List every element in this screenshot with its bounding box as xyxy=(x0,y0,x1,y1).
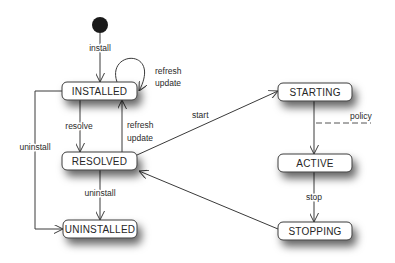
label-policy: policy xyxy=(350,111,372,121)
state-resolved: RESOLVED xyxy=(62,152,137,170)
label-self-update: update xyxy=(155,78,181,88)
state-starting: STARTING xyxy=(278,83,352,101)
label-resolve: resolve xyxy=(65,121,93,131)
initial-state-dot xyxy=(92,17,108,33)
state-stopping: STOPPING xyxy=(278,222,352,240)
state-active: ACTIVE xyxy=(278,154,352,172)
state-stopping-label: STOPPING xyxy=(288,226,341,237)
edge-stopping-to-resolved xyxy=(139,171,278,229)
state-resolved-label: RESOLVED xyxy=(72,156,127,167)
state-starting-label: STARTING xyxy=(289,87,340,98)
osgi-bundle-lifecycle-diagram: install refresh update resolve refresh u… xyxy=(0,0,395,263)
state-installed-label: INSTALLED xyxy=(72,86,128,97)
label-self-refresh: refresh xyxy=(155,66,182,76)
label-refresh: refresh xyxy=(127,120,154,130)
state-installed: INSTALLED xyxy=(62,82,137,100)
label-install: install xyxy=(89,43,111,53)
label-uninstall-middle: uninstall xyxy=(84,188,115,198)
state-active-label: ACTIVE xyxy=(296,158,333,169)
state-uninstalled-label: UNINSTALLED xyxy=(65,224,135,235)
edge-uninstall-from-installed xyxy=(35,91,63,229)
state-uninstalled: UNINSTALLED xyxy=(63,220,137,238)
label-start: start xyxy=(192,110,209,120)
label-update: update xyxy=(127,133,153,143)
label-uninstall-left: uninstall xyxy=(19,142,50,152)
edge-start xyxy=(137,91,278,155)
label-stop: stop xyxy=(306,192,322,202)
